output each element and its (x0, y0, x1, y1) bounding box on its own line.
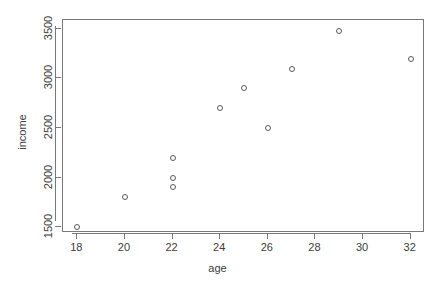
y-axis-tick-label: 3000 (42, 65, 54, 89)
data-point (170, 155, 176, 161)
y-axis-tick (55, 226, 61, 227)
x-axis-tick (267, 233, 268, 239)
data-point (217, 105, 223, 111)
y-axis-line (55, 26, 56, 221)
y-axis-tick (55, 77, 61, 78)
data-point (122, 194, 128, 200)
scatter-plot-figure: age income 18202224262830321500200025003… (0, 0, 435, 292)
data-point (170, 175, 176, 181)
y-axis-tick (55, 127, 61, 128)
x-axis-tick-label: 22 (165, 241, 177, 253)
x-axis-tick (410, 233, 411, 239)
x-axis-line (72, 233, 410, 234)
x-axis-tick-label: 28 (308, 241, 320, 253)
x-axis-tick (362, 233, 363, 239)
data-point (170, 184, 176, 190)
x-axis-tick (76, 233, 77, 239)
y-axis-title: income (16, 102, 28, 162)
x-axis-tick-label: 18 (70, 241, 82, 253)
y-axis-tick (55, 28, 61, 29)
x-axis-tick (219, 233, 220, 239)
data-point (289, 66, 295, 72)
data-point (408, 56, 414, 62)
x-axis-tick (172, 233, 173, 239)
plot-panel (62, 19, 424, 232)
y-axis-tick-label: 2000 (42, 164, 54, 188)
x-axis-tick (314, 233, 315, 239)
y-axis-tick-label: 1500 (42, 214, 54, 238)
x-axis-tick-label: 32 (404, 241, 416, 253)
data-point (74, 224, 80, 230)
x-axis-tick-label: 30 (356, 241, 368, 253)
x-axis-tick (124, 233, 125, 239)
y-axis-tick-label: 2500 (42, 115, 54, 139)
data-point (241, 85, 247, 91)
y-axis-tick (55, 177, 61, 178)
x-axis-title: age (0, 262, 435, 274)
x-axis-tick-label: 26 (261, 241, 273, 253)
data-point (336, 28, 342, 34)
x-axis-tick-label: 24 (213, 241, 225, 253)
x-axis-tick-label: 20 (118, 241, 130, 253)
data-point (265, 125, 271, 131)
y-axis-tick-label: 3500 (42, 16, 54, 40)
